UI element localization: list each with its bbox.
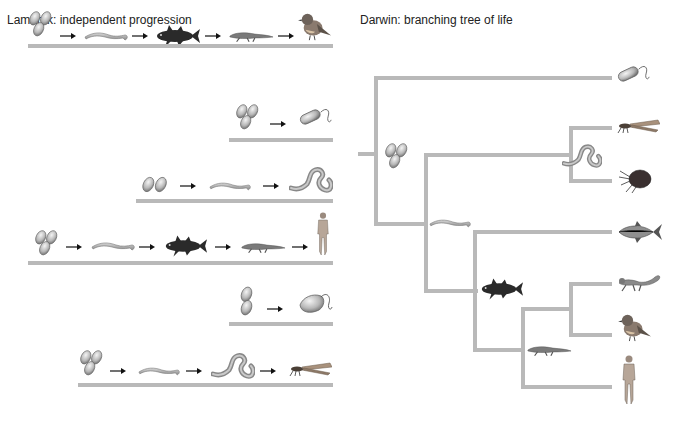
arrow-icon: [270, 120, 286, 128]
fish-icon: [617, 221, 663, 243]
lineage-bar: [136, 199, 333, 203]
arrow-icon: [180, 182, 196, 190]
flatworm-icon: [83, 30, 129, 42]
tree-branch: [569, 333, 612, 337]
prokaryote-cells-icon: [33, 228, 61, 256]
tree-branch: [569, 282, 573, 336]
crustacean-icon: [618, 167, 654, 193]
amphibian-icon: [526, 343, 572, 357]
bird-icon: [298, 10, 332, 42]
amphibian-icon: [228, 29, 274, 43]
arrow-icon: [205, 32, 221, 40]
protist-icon: [297, 291, 333, 315]
lineage-bar: [28, 44, 333, 48]
bacterium-icon: [616, 63, 650, 85]
tree-branch: [374, 76, 612, 80]
prokaryote-cells-icon: [238, 286, 255, 316]
prokaryote-cells-icon: [234, 102, 262, 130]
flatworm-icon: [90, 240, 136, 252]
arrow-icon: [66, 243, 82, 251]
annelid-worm-icon: [562, 143, 602, 171]
tree-branch: [473, 230, 612, 234]
tree-branch: [473, 348, 524, 352]
prokaryote-cells-icon: [78, 348, 106, 376]
arrow-icon: [292, 243, 308, 251]
insect-icon: [616, 118, 660, 136]
lizard-icon: [617, 271, 661, 293]
prokaryote-cells-icon: [383, 141, 411, 169]
bird-icon: [618, 312, 652, 342]
tree-branch: [521, 307, 525, 388]
tree-branch: [569, 126, 612, 130]
darwin-title: Darwin: branching tree of life: [360, 13, 513, 27]
prokaryote-cells-icon: [27, 9, 55, 37]
tree-branch: [473, 230, 477, 351]
arrow-icon: [139, 243, 155, 251]
tree-branch: [374, 76, 378, 226]
arrow-icon: [215, 243, 231, 251]
arrow-icon: [60, 32, 76, 40]
prokaryote-cells-icon: [140, 176, 170, 193]
arrow-icon: [278, 32, 294, 40]
arrow-icon: [260, 367, 276, 375]
arrow-icon: [110, 367, 126, 375]
insect-icon: [288, 361, 332, 379]
flatworm-icon: [428, 217, 472, 229]
lineage-bar: [78, 383, 333, 387]
annelid-worm-icon: [289, 166, 333, 196]
bacterium-icon: [298, 106, 332, 128]
human-icon: [621, 352, 637, 408]
tree-branch: [521, 307, 573, 311]
arrow-icon: [132, 32, 148, 40]
lineage-bar: [229, 138, 333, 142]
lineage-bar: [28, 261, 333, 265]
lineage-bar: [229, 322, 333, 326]
tree-branch: [569, 179, 612, 183]
tree-branch: [374, 222, 428, 226]
tree-branch: [424, 153, 573, 157]
arrow-icon: [267, 305, 283, 313]
tree-branch: [424, 289, 478, 293]
arrow-icon: [263, 182, 279, 190]
annelid-worm-icon: [211, 352, 255, 382]
flatworm-icon: [208, 180, 252, 192]
tree-branch: [521, 385, 612, 389]
coelacanth-icon: [162, 235, 208, 257]
flatworm-icon: [137, 365, 181, 377]
amphibian-icon: [240, 240, 286, 254]
human-icon: [316, 206, 330, 262]
coelacanth-icon: [478, 278, 524, 300]
arrow-icon: [186, 367, 202, 375]
tree-branch: [569, 282, 612, 286]
